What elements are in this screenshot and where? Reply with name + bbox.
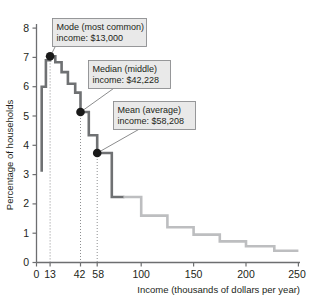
y-tick-label-7: 7: [23, 51, 29, 63]
callout-mean-line2: income: $58,208: [118, 116, 185, 126]
y-tick-label-1: 1: [23, 227, 29, 239]
callout-mode-line2: income: $13,000: [57, 33, 124, 43]
x-axis-tick-labels: 0 13 42 58 100 150 200 250: [34, 268, 306, 280]
x-tick-label-42: 42: [74, 268, 86, 280]
marker-dot-mode: [46, 52, 55, 61]
x-tick-label-100: 100: [132, 268, 150, 280]
x-tick-label-200: 200: [237, 268, 255, 280]
y-tick-label-3: 3: [23, 168, 29, 180]
y-axis-tick-labels: 0 1 2 3 4 5 6 7 8: [23, 22, 29, 268]
leader-line-median: [82, 86, 117, 111]
y-tick-label-8: 8: [23, 22, 29, 34]
step-curve-light: [123, 197, 298, 251]
y-axis-title: Percentage of households: [4, 100, 15, 211]
x-tick-label-250: 250: [288, 268, 306, 280]
callout-median-line2: income: $42,228: [93, 75, 160, 85]
y-tick-label-5: 5: [23, 110, 29, 122]
callout-mode-line1: Mode (most common): [57, 22, 145, 32]
x-tick-label-0: 0: [34, 268, 40, 280]
x-tick-label-150: 150: [185, 268, 203, 280]
callout-mode: Mode (most common) income: $13,000: [53, 19, 147, 47]
x-tick-label-58: 58: [92, 268, 104, 280]
marker-dot-median: [76, 108, 85, 117]
callout-median: Median (middle) income: $42,228: [89, 61, 171, 89]
y-tick-label-4: 4: [23, 139, 29, 151]
leader-line-mean: [99, 127, 143, 152]
callout-mean: Mean (average) income: $58,208: [114, 102, 196, 130]
x-axis-title: Income (thousands of dollars per year): [137, 284, 300, 295]
marker-dot-mean: [93, 149, 102, 158]
x-tick-label-13: 13: [44, 268, 56, 280]
income-distribution-chart: 0 1 2 3 4 5 6 7 8 0 13 42 58 100: [0, 0, 309, 305]
y-tick-label-6: 6: [23, 80, 29, 92]
callout-median-line1: Median (middle): [93, 64, 158, 74]
y-tick-label-2: 2: [23, 197, 29, 209]
y-tick-label-0: 0: [23, 256, 29, 268]
chart-canvas: 0 1 2 3 4 5 6 7 8 0 13 42 58 100: [0, 0, 309, 305]
callout-mean-line1: Mean (average): [118, 105, 182, 115]
